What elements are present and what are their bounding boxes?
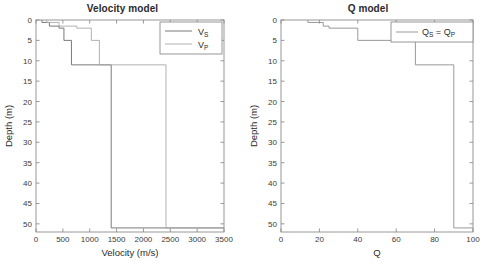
model-curve (47, 20, 166, 228)
y-tick-label: 45 (268, 199, 277, 208)
x-tick-label: 40 (353, 235, 362, 244)
x-tick-label: 1500 (108, 235, 126, 244)
y-tick-label: 0 (28, 16, 33, 25)
legend-label: QS = QP (422, 27, 455, 38)
x-tick-label: 500 (56, 235, 70, 244)
y-tick-label: 10 (23, 57, 32, 66)
y-tick-label: 25 (23, 118, 32, 127)
x-tick-label: 0 (279, 235, 284, 244)
y-tick-label: 0 (273, 16, 278, 25)
y-tick-label: 30 (23, 138, 32, 147)
x-tick-label: 0 (34, 235, 39, 244)
figure-container: Velocity model 0500100015002000250030003… (0, 0, 491, 272)
x-tick-label: 100 (466, 235, 480, 244)
x-tick-label: 3000 (188, 235, 206, 244)
q-model-panel: Q model 02040608010005101520253035404550… (245, 0, 491, 272)
x-tick-label: 3500 (215, 235, 233, 244)
y-axis-label: Depth (m) (248, 105, 259, 147)
velocity-model-panel: Velocity model 0500100015002000250030003… (0, 0, 245, 272)
velocity-model-plot: 0500100015002000250030003500051015202530… (0, 0, 245, 272)
y-tick-label: 30 (268, 138, 277, 147)
x-tick-label: 1000 (81, 235, 99, 244)
y-tick-label: 15 (23, 77, 32, 86)
y-tick-label: 35 (23, 159, 32, 168)
q-model-plot: 02040608010005101520253035404550QDepth (… (245, 0, 491, 272)
y-tick-label: 50 (23, 220, 32, 229)
y-tick-label: 20 (268, 98, 277, 107)
y-axis-label: Depth (m) (3, 105, 14, 147)
x-axis-label: Q (373, 247, 380, 258)
y-tick-label: 5 (273, 36, 278, 45)
x-tick-label: 2500 (161, 235, 179, 244)
y-tick-label: 40 (23, 179, 32, 188)
y-tick-label: 5 (28, 36, 33, 45)
x-axis-label: Velocity (m/s) (101, 247, 158, 258)
x-tick-label: 20 (315, 235, 324, 244)
legend-box[interactable] (160, 22, 222, 54)
y-tick-label: 50 (268, 220, 277, 229)
y-tick-label: 10 (268, 57, 277, 66)
y-tick-label: 15 (268, 77, 277, 86)
y-tick-label: 35 (268, 159, 277, 168)
y-tick-label: 45 (23, 199, 32, 208)
x-tick-label: 2000 (135, 235, 153, 244)
plot-box (281, 20, 473, 232)
model-curve (42, 20, 111, 228)
model-curve (308, 20, 454, 228)
y-tick-label: 20 (23, 98, 32, 107)
x-tick-label: 60 (392, 235, 401, 244)
x-tick-label: 80 (430, 235, 439, 244)
y-tick-label: 40 (268, 179, 277, 188)
y-tick-label: 25 (268, 118, 277, 127)
